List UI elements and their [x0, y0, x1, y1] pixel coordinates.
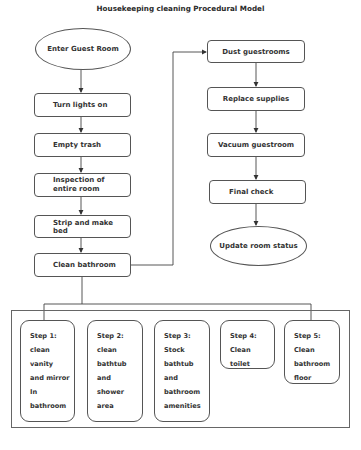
step-line: and — [97, 371, 142, 385]
node-empty-trash: Empty trash — [34, 133, 131, 157]
node-label: Strip and make bed — [53, 219, 130, 235]
step-line: and — [164, 371, 209, 385]
node-label-line: Inspection of — [53, 176, 105, 185]
step-line: amenities — [164, 399, 209, 413]
node-label-line: entire room — [53, 185, 105, 194]
step-4-box: Step 4: Clean toilet — [220, 320, 275, 369]
step-line: Stock — [164, 343, 209, 357]
step-line: bathroom — [294, 357, 339, 371]
node-label: Turn lights on — [53, 101, 107, 109]
step-line: bathtub — [97, 357, 142, 371]
step-line: Step 2: — [97, 329, 142, 343]
node-vacuum-guestroom: Vacuum guestroom — [207, 133, 305, 157]
step-line: clean — [97, 343, 142, 357]
step-line: bathroom — [30, 399, 74, 413]
step-5-box: Step 5: Clean bathroom floor — [284, 320, 340, 384]
step-line: bathtub — [164, 357, 209, 371]
step-line: Clean — [294, 343, 339, 357]
node-enter-guest-room: Enter Guest Room — [35, 28, 131, 70]
node-label: Empty trash — [53, 141, 101, 149]
node-dust-guestrooms: Dust guestrooms — [207, 40, 305, 63]
step-1-box: Step 1: clean vanity and mirror In bathr… — [20, 320, 75, 422]
step-line: clean — [30, 343, 74, 357]
node-label: Vacuum guestroom — [218, 141, 294, 149]
step-line: area — [97, 399, 142, 413]
step-line: bathroom — [164, 385, 209, 399]
step-3-box: Step 3: Stock bathtub and bathroom ameni… — [154, 320, 210, 422]
step-line: toilet — [230, 357, 274, 371]
node-label: Clean bathroom — [53, 261, 116, 269]
node-label: Final check — [229, 188, 273, 196]
step-line: Step 1: — [30, 329, 74, 343]
node-inspection: Inspection of entire room — [34, 173, 131, 197]
node-label: Update room status — [219, 242, 298, 250]
node-clean-bathroom: Clean bathroom — [34, 253, 131, 277]
step-line: In — [30, 385, 74, 399]
step-line: and mirror — [30, 371, 74, 385]
step-line: floor — [294, 371, 339, 385]
node-final-check: Final check — [209, 180, 306, 204]
node-strip-make-bed: Strip and make bed — [34, 215, 131, 238]
step-line: Step 4: — [230, 329, 274, 343]
node-update-room-status: Update room status — [210, 226, 307, 266]
node-turn-lights-on: Turn lights on — [34, 93, 131, 117]
node-label: Dust guestrooms — [222, 48, 290, 56]
node-label: Enter Guest Room — [47, 45, 118, 53]
node-label: Replace supplies — [223, 95, 290, 103]
step-line: vanity — [30, 357, 74, 371]
step-line: Step 3: — [164, 329, 209, 343]
step-line: Step 5: — [294, 329, 339, 343]
node-replace-supplies: Replace supplies — [207, 87, 305, 111]
step-line: Clean — [230, 343, 274, 357]
step-line: shower — [97, 385, 142, 399]
step-2-box: Step 2: clean bathtub and shower area — [87, 320, 143, 422]
